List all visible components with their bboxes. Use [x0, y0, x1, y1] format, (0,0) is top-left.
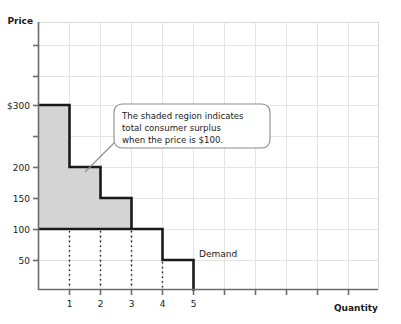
demand-curve-label: Demand: [199, 249, 237, 259]
y-tick-label-50: 50: [19, 256, 31, 266]
x-tick-label-5: 5: [191, 299, 197, 309]
callout-line-3: when the price is $100.: [122, 135, 223, 145]
x-axis-title: Quantity: [334, 303, 378, 313]
x-tick-label-2: 2: [98, 299, 104, 309]
x-tick-label-1: 1: [67, 299, 73, 309]
y-tick-label-200: 200: [13, 163, 30, 173]
chart-figure: $300 200 150 100 50 1 2 3 4 5 Price Quan…: [0, 0, 401, 324]
callout-line-1: The shaded region indicates: [121, 111, 244, 121]
y-tick-label-150: 150: [13, 194, 30, 204]
y-axis-title: Price: [7, 16, 33, 26]
callout-line-2: total consumer surplus: [122, 123, 221, 133]
y-tick-label-100: 100: [13, 225, 30, 235]
y-tick-label-300: $300: [7, 101, 30, 111]
x-tick-label-3: 3: [129, 299, 135, 309]
x-tick-label-4: 4: [160, 299, 166, 309]
consumer-surplus-chart: $300 200 150 100 50 1 2 3 4 5 Price Quan…: [0, 0, 401, 324]
